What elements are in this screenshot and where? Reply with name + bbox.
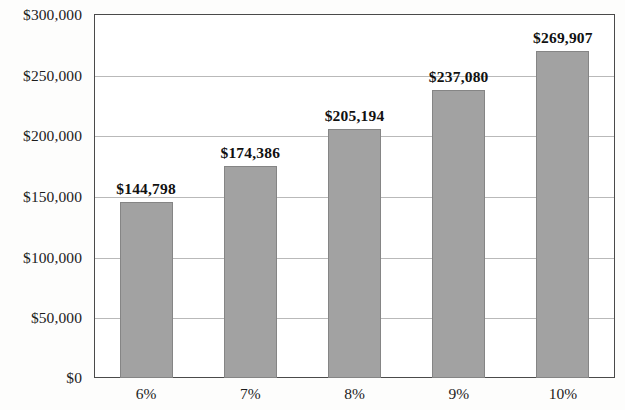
- y-tick-label-200000: $200,000: [23, 127, 82, 145]
- bar-value-label-9pct: $237,080: [429, 68, 489, 86]
- y-tick-label-100000: $100,000: [23, 249, 82, 267]
- bar-value-label-7pct: $174,386: [220, 144, 280, 162]
- bar-value-label-10pct: $269,907: [533, 29, 593, 47]
- bar-10pct[interactable]: $269,907: [536, 51, 589, 378]
- x-tick-label-8pct: 8%: [302, 381, 406, 409]
- bar-value-label-6pct: $144,798: [116, 180, 176, 198]
- x-tick-label-6pct: 6%: [94, 381, 198, 409]
- y-tick-label-50000: $50,000: [31, 309, 82, 327]
- bars-layer: $144,798 $174,386 $205,194 $237,080 $269…: [94, 14, 615, 378]
- y-tick-label-300000: $300,000: [23, 6, 82, 24]
- bar-8pct[interactable]: $205,194: [328, 129, 381, 378]
- y-tick-label-150000: $150,000: [23, 188, 82, 206]
- y-tick-label-250000: $250,000: [23, 67, 82, 85]
- x-tick-label-10pct: 10%: [511, 381, 615, 409]
- bar-7pct[interactable]: $174,386: [224, 166, 277, 378]
- x-tick-label-9pct: 9%: [407, 381, 511, 409]
- y-tick-label-0: $0: [66, 369, 82, 387]
- bar-slot-8pct: $205,194: [302, 14, 406, 378]
- bar-slot-7pct: $174,386: [198, 14, 302, 378]
- bar-slot-9pct: $237,080: [407, 14, 511, 378]
- y-axis-tick-labels: $300,000 $250,000 $200,000 $150,000 $100…: [0, 0, 88, 410]
- bar-9pct[interactable]: $237,080: [432, 90, 485, 378]
- bar-value-label-8pct: $205,194: [325, 107, 385, 125]
- bar-slot-10pct: $269,907: [511, 14, 615, 378]
- bar-6pct[interactable]: $144,798: [120, 202, 173, 378]
- x-axis-tick-labels: 6% 7% 8% 9% 10%: [94, 381, 615, 409]
- x-tick-label-7pct: 7%: [198, 381, 302, 409]
- bar-chart: $300,000 $250,000 $200,000 $150,000 $100…: [0, 0, 625, 410]
- bar-slot-6pct: $144,798: [94, 14, 198, 378]
